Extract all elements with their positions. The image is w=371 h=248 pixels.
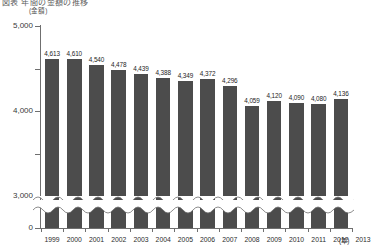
- y-axis-tick-label: 0: [0, 224, 33, 232]
- x-axis-tick-label: 2005: [178, 236, 193, 243]
- bar-value-label: 4,059: [244, 97, 260, 104]
- y-axis-tick-label: 3,000: [0, 192, 33, 200]
- bar-value-label: 4,613: [44, 50, 60, 57]
- x-axis-tick-label: 2013: [356, 236, 371, 243]
- x-axis-tick: [285, 228, 286, 232]
- x-axis-tick: [130, 228, 131, 232]
- x-axis-tick-label: 2009: [267, 236, 282, 243]
- x-axis-tick: [352, 228, 353, 232]
- y-axis-label-wrap: 4,000: [0, 107, 33, 115]
- bar-slot[interactable]: 4,540: [85, 25, 107, 228]
- y-axis-tick: [35, 228, 40, 229]
- x-axis-tick-label: 2003: [133, 236, 148, 243]
- bar[interactable]: [111, 70, 126, 228]
- bar-slot[interactable]: 4,439: [130, 25, 152, 228]
- bar[interactable]: [200, 79, 215, 228]
- bar[interactable]: [156, 78, 171, 228]
- y-axis-tick: [35, 154, 40, 155]
- bar-slot[interactable]: 4,388: [152, 25, 174, 228]
- bar-value-label: 4,388: [155, 69, 171, 76]
- bar[interactable]: [289, 103, 304, 228]
- x-axis-tick: [152, 228, 153, 232]
- bar[interactable]: [89, 65, 104, 228]
- bar-value-label: 4,120: [266, 92, 282, 99]
- bar-value-label: 4,090: [289, 94, 305, 101]
- y-axis-tick: [35, 111, 40, 112]
- x-axis-tick-label: 2004: [156, 236, 171, 243]
- bar-slot[interactable]: 4,136: [330, 25, 352, 228]
- bar-value-label: 4,296: [222, 77, 238, 84]
- x-axis-tick: [308, 228, 309, 232]
- bar[interactable]: [45, 59, 60, 228]
- bar[interactable]: [334, 99, 349, 228]
- y-axis-tick: [35, 196, 40, 197]
- bar[interactable]: [67, 59, 82, 228]
- bar-slot[interactable]: 4,349: [174, 25, 196, 228]
- bar-value-label: 4,439: [133, 65, 149, 72]
- bar-slot[interactable]: 4,059: [241, 25, 263, 228]
- bar[interactable]: [245, 106, 260, 228]
- bar[interactable]: [178, 81, 193, 228]
- x-axis-tick: [63, 228, 64, 232]
- y-axis-tick: [35, 69, 40, 70]
- y-axis-label-wrap: 5,000: [0, 22, 33, 30]
- x-axis-tick: [330, 228, 331, 232]
- bar-slot[interactable]: 4,296: [219, 25, 241, 228]
- bar-slot[interactable]: 4,120: [263, 25, 285, 228]
- x-axis-tick: [241, 228, 242, 232]
- bar[interactable]: [267, 101, 282, 228]
- x-axis-tick: [41, 228, 42, 232]
- bar-slot[interactable]: 4,613: [41, 25, 63, 228]
- y-axis-unit-label: (金額): [29, 5, 47, 15]
- bar[interactable]: [223, 86, 238, 228]
- x-axis-tick-label: 2001: [89, 236, 104, 243]
- x-axis-tick-label: 2006: [200, 236, 215, 243]
- bar-slot[interactable]: 4,478: [108, 25, 130, 228]
- x-axis-tick: [85, 228, 86, 232]
- x-axis-tick-label: 2010: [289, 236, 304, 243]
- y-axis-tick-label: 5,000: [0, 22, 33, 30]
- x-axis-tick-label: 2011: [311, 236, 326, 243]
- x-axis-tick-label: 2007: [222, 236, 237, 243]
- x-axis-tick-label: 2008: [244, 236, 259, 243]
- bar-slot[interactable]: 4,080: [308, 25, 330, 228]
- chart-title-strip: 図表 年間の金額の推移: [0, 0, 357, 7]
- x-axis-tick: [108, 228, 109, 232]
- bar-slot[interactable]: 4,090: [285, 25, 307, 228]
- x-axis-tick: [219, 228, 220, 232]
- y-axis-tick-label: 4,000: [0, 107, 33, 115]
- y-axis-tick: [35, 26, 40, 27]
- bar-value-label: 4,080: [311, 95, 327, 102]
- bar-slot[interactable]: 4,372: [197, 25, 219, 228]
- x-axis-tick-label: 2002: [111, 236, 126, 243]
- bar[interactable]: [311, 104, 326, 228]
- bar-value-label: 4,372: [200, 70, 216, 77]
- bar-value-label: 4,349: [178, 72, 194, 79]
- x-axis-tick: [174, 228, 175, 232]
- y-axis-label-wrap: 3,000: [0, 192, 33, 200]
- x-axis-line: [40, 228, 352, 229]
- x-axis-unit-label: (年): [339, 236, 349, 245]
- x-axis-tick-label: 1999: [45, 236, 60, 243]
- bar-series: 4,6134,6104,5404,4784,4394,3884,3494,372…: [41, 25, 352, 228]
- bar-value-label: 4,478: [111, 61, 127, 68]
- x-axis-tick-label: 2000: [67, 236, 82, 243]
- y-axis-label-wrap: 0: [0, 224, 33, 232]
- bar-slot[interactable]: 4,610: [63, 25, 85, 228]
- x-axis-tick: [263, 228, 264, 232]
- bar-value-label: 4,540: [89, 56, 105, 63]
- x-axis-tick: [197, 228, 198, 232]
- bar-value-label: 4,610: [67, 50, 83, 57]
- bar[interactable]: [134, 74, 149, 228]
- bar-value-label: 4,136: [333, 90, 349, 97]
